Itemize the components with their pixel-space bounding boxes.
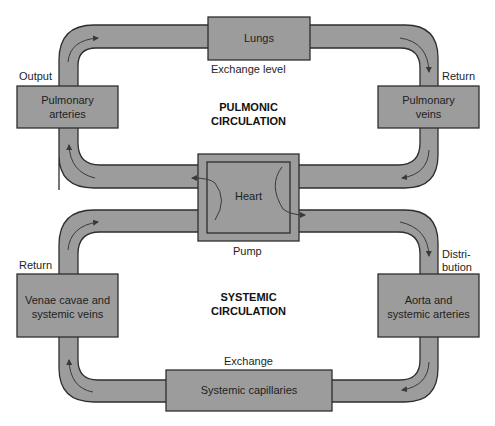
distribution-line2: bution: [442, 261, 472, 274]
pulmonic-title-line1: PULMONIC: [198, 100, 299, 114]
distribution-line1: Distri-: [442, 248, 472, 261]
heart-label: Heart: [207, 189, 290, 203]
pulmonary-arteries-line1: Pulmonary: [17, 93, 118, 107]
pulmonary-veins-label: Pulmonary veins: [378, 93, 479, 121]
distribution-label: Distri- bution: [442, 248, 472, 274]
aorta-line1: Aorta and: [378, 293, 479, 307]
systemic-title-line1: SYSTEMIC: [198, 290, 299, 304]
pulmonic-title-line2: CIRCULATION: [198, 114, 299, 128]
exchange-label: Exchange: [224, 355, 273, 368]
aorta-line2: systemic arteries: [378, 307, 479, 321]
pulmonary-arteries-line2: arteries: [17, 107, 118, 121]
venae-cavae-line1: Venae cavae and: [17, 293, 118, 307]
pulmonary-arteries-label: Pulmonary arteries: [17, 93, 118, 121]
systemic-circulation-title: SYSTEMIC CIRCULATION: [198, 290, 299, 318]
systemic-title-line2: CIRCULATION: [198, 304, 299, 318]
pulmonary-veins-line1: Pulmonary: [378, 93, 479, 107]
pulmonary-veins-line2: veins: [378, 107, 479, 121]
systemic-return-label: Return: [19, 259, 52, 272]
output-label: Output: [19, 70, 52, 83]
venae-cavae-line2: systemic veins: [17, 307, 118, 321]
lungs-label: Lungs: [208, 31, 310, 45]
pulmonic-return-label: Return: [442, 70, 475, 83]
venae-cavae-label: Venae cavae and systemic veins: [17, 293, 118, 321]
exchange-level-label: Exchange level: [211, 63, 286, 76]
aorta-label: Aorta and systemic arteries: [378, 293, 479, 321]
pump-label: Pump: [233, 245, 262, 258]
pulmonic-circulation-title: PULMONIC CIRCULATION: [198, 100, 299, 128]
systemic-capillaries-label: Systemic capillaries: [166, 383, 332, 397]
